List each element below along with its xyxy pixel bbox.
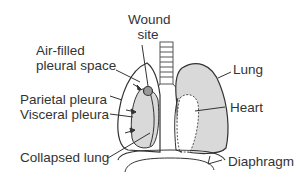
- wound-site-marker: [144, 87, 153, 96]
- label-air-filled-line2: pleural space: [36, 58, 116, 73]
- label-wound-site-line2: site: [128, 27, 168, 42]
- label-visceral-pleura: Visceral pleura: [20, 107, 109, 122]
- collapsed-lung: [131, 89, 158, 148]
- pneumothorax-diagram: Wound site Air-filled pleural space Lung…: [0, 0, 302, 178]
- label-wound-site: Wound site: [128, 12, 168, 42]
- label-diaphragm: Diaphragm: [228, 154, 294, 169]
- label-heart: Heart: [230, 100, 263, 115]
- label-air-filled-pleural-space: Air-filled pleural space: [36, 43, 116, 73]
- label-lung: Lung: [233, 62, 263, 77]
- label-air-filled-line1: Air-filled: [36, 43, 116, 58]
- label-wound-site-line1: Wound: [128, 12, 168, 27]
- label-collapsed-lung: Collapsed lung: [20, 150, 109, 165]
- label-parietal-pleura: Parietal pleura: [20, 92, 107, 107]
